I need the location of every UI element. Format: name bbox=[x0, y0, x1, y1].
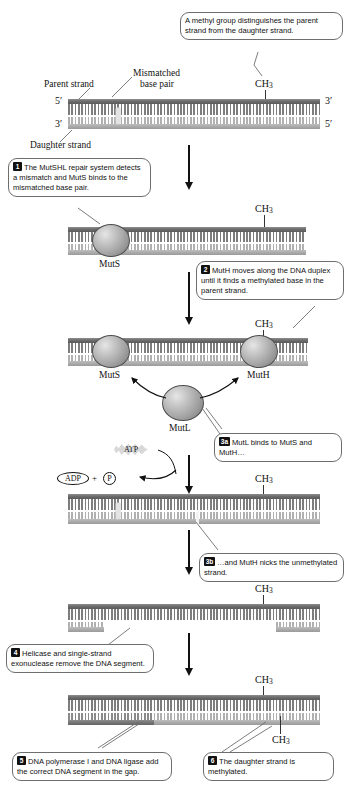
methyl-subscript: 3 bbox=[286, 737, 290, 746]
five-prime-left-panel-1: 5′ bbox=[55, 95, 62, 106]
callout-methyl-note: A methyl group distinguishes the parent … bbox=[180, 12, 343, 40]
daughter-backbone bbox=[68, 124, 320, 129]
methyl-text: CH bbox=[272, 734, 286, 745]
muts-protein bbox=[92, 224, 130, 257]
label-daughter-strand: Daughter strand bbox=[30, 140, 91, 150]
flow-arrow-2 bbox=[188, 272, 190, 318]
phosphate-oval: P bbox=[103, 472, 116, 485]
base-pair-rungs-lower bbox=[68, 117, 320, 124]
callout-step-3a-text: MutL binds to MutS and MutH… bbox=[219, 438, 312, 457]
label-mutl: MutL bbox=[169, 423, 191, 433]
label-muth-panel-3: MutH bbox=[247, 370, 270, 380]
flow-arrow-5 bbox=[188, 633, 190, 669]
muth-protein bbox=[240, 335, 278, 368]
flow-arrow-1 bbox=[188, 145, 190, 183]
callout-step-4-text: Helicase and single-strand exonuclease r… bbox=[11, 649, 145, 668]
callout-step-2-text: MutH moves along the DNA duplex until it… bbox=[201, 266, 330, 295]
leader-mismatch bbox=[112, 77, 138, 99]
methyl-stem-daughter bbox=[280, 716, 281, 734]
callout-step-1: 1The MutSHL repair system detects a mism… bbox=[8, 158, 151, 197]
methyl-subscript: 3 bbox=[269, 206, 273, 215]
callout-step-3b-text: …and MutH nicks the unmethylated strand. bbox=[204, 558, 337, 577]
step-3b-number: 3b bbox=[204, 557, 215, 566]
leader-step-5 bbox=[98, 722, 146, 752]
label-muts-panel-2: MutS bbox=[99, 259, 120, 269]
callout-step-5-text: DNA polymerase I and DNA ligase add the … bbox=[17, 757, 158, 776]
methyl-text: CH bbox=[255, 473, 269, 484]
step-2-number: 2 bbox=[201, 265, 210, 274]
plus-sign: + bbox=[92, 473, 97, 483]
callout-step-2: 2MutH moves along the DNA duplex until i… bbox=[196, 261, 344, 300]
callout-methyl-note-text: A methyl group distinguishes the parent … bbox=[185, 16, 318, 35]
step-1-number: 1 bbox=[13, 162, 22, 171]
methyl-label-panel-4: CH3 bbox=[255, 473, 273, 485]
methyl-subscript: 3 bbox=[269, 677, 273, 686]
leader-step-3a bbox=[200, 408, 224, 440]
methyl-text: CH bbox=[255, 674, 269, 685]
callout-step-3b: 3b…and MutH nicks the unmethylated stran… bbox=[199, 553, 344, 582]
label-muts-panel-3: MutS bbox=[99, 370, 120, 380]
methyl-label-daughter: CH3 bbox=[272, 734, 290, 746]
leader-step-3b bbox=[196, 522, 226, 554]
step-6-number: 6 bbox=[208, 756, 217, 765]
adp-label: ADP bbox=[65, 474, 81, 483]
methyl-subscript: 3 bbox=[269, 321, 273, 330]
base-pair-rungs-lower bbox=[68, 512, 320, 519]
label-mismatch-line2: base pair bbox=[140, 79, 174, 89]
callout-step-5: 5DNA polymerase I and DNA ligase add the… bbox=[12, 752, 172, 781]
adp-oval: ADP bbox=[57, 472, 89, 485]
leader-step-6 bbox=[212, 722, 272, 756]
muts-protein bbox=[92, 335, 130, 368]
dna-duplex-nicked bbox=[68, 494, 320, 524]
phosphate-label: P bbox=[107, 474, 111, 483]
new-dna-segment-rungs bbox=[68, 713, 154, 720]
methyl-subscript: 3 bbox=[269, 476, 273, 485]
methyl-text: CH bbox=[255, 583, 269, 594]
base-pair-rungs-upper bbox=[68, 104, 320, 115]
base-pair-rungs-upper bbox=[68, 700, 320, 711]
methyl-stem-panel-2 bbox=[264, 215, 265, 227]
arrow-mutl-to-muts bbox=[126, 374, 170, 404]
methyl-text: CH bbox=[255, 203, 269, 214]
five-prime-right-panel-1: 5′ bbox=[325, 118, 332, 129]
daughter-backbone bbox=[68, 519, 320, 524]
methyl-label-panel-2: CH3 bbox=[255, 203, 273, 215]
methyl-label-panel-5: CH3 bbox=[255, 583, 273, 595]
flow-arrow-3 bbox=[188, 455, 190, 487]
daughter-fragment-right-backbone bbox=[276, 627, 320, 632]
methyl-subscript: 3 bbox=[269, 586, 273, 595]
methyl-label-panel-6: CH3 bbox=[255, 674, 273, 686]
methyl-text: CH bbox=[255, 78, 269, 89]
callout-step-6: 6The daughter strand is methylated. bbox=[203, 752, 334, 781]
methyl-text: CH bbox=[255, 318, 269, 329]
dna-duplex-repaired bbox=[68, 695, 320, 725]
methyl-label-panel-1: CH3 bbox=[255, 78, 273, 90]
step-5-number: 5 bbox=[17, 756, 26, 765]
mismatched-base-pair-marker bbox=[116, 108, 120, 124]
callout-step-4: 4Helicase and single-strand exonuclease … bbox=[6, 644, 154, 673]
callout-step-6-text: The daughter strand is methylated. bbox=[208, 757, 295, 776]
label-mismatch-line1: Mismatched bbox=[133, 68, 180, 78]
flow-arrow-4 bbox=[188, 530, 190, 568]
methyl-label-panel-3: CH3 bbox=[255, 318, 273, 330]
leader-methyl-note bbox=[250, 52, 280, 78]
step-4-number: 4 bbox=[11, 648, 20, 657]
leader-step-2 bbox=[285, 306, 321, 332]
three-prime-left-panel-1: 3′ bbox=[55, 118, 62, 129]
callout-step-3a: 3aMutL binds to MutS and MutH… bbox=[214, 433, 342, 462]
methyl-subscript: 3 bbox=[269, 81, 273, 90]
dna-duplex-initial bbox=[68, 99, 320, 129]
callout-step-1-text: The MutSHL repair system detects a misma… bbox=[13, 163, 141, 192]
mismatched-base-pair-marker bbox=[116, 503, 120, 519]
arrow-mutl-to-muth bbox=[198, 374, 244, 404]
base-pair-rungs-upper bbox=[68, 609, 320, 620]
diagram-canvas: A methyl group distinguishes the parent … bbox=[0, 0, 350, 808]
base-pair-rungs-upper bbox=[68, 499, 320, 510]
three-prime-right-panel-1: 3′ bbox=[325, 95, 332, 106]
